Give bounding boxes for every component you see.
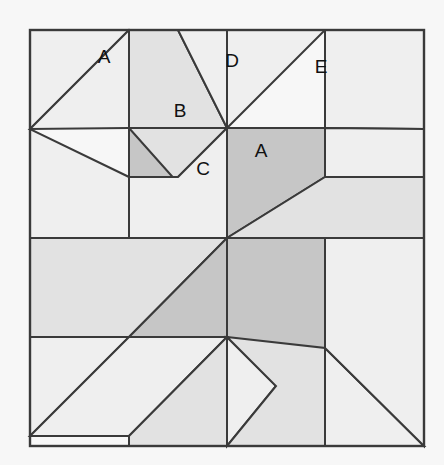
quilt-patch-top-right-light-wedge (325, 30, 424, 129)
quilt-patch-left-light-wedge (30, 129, 129, 238)
quilt-patch-right-light-wedge (325, 128, 424, 177)
patch-group (30, 30, 424, 446)
quilt-patch-center-dark-blade-right (227, 238, 325, 348)
quilt-block-diagram: ADEBCA (0, 0, 444, 465)
quilt-diagram-stage: ADEBCA (0, 0, 444, 465)
quilt-patch-top-right-light-band (227, 30, 325, 128)
